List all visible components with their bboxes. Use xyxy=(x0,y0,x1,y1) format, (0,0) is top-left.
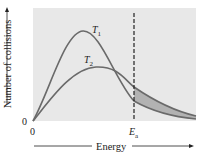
t1-sub: 1 xyxy=(98,30,102,38)
y-axis-label: Number of collisions xyxy=(2,16,14,112)
ea-label: Ea xyxy=(129,126,138,140)
x-axis-arrowhead-icon xyxy=(189,144,194,148)
x-axis-label: Energy xyxy=(96,141,126,152)
ea-sub: a xyxy=(135,132,138,140)
x-axis-zero-tick: 0 xyxy=(30,126,35,137)
y-axis-zero-tick: 0 xyxy=(22,116,27,127)
y-axis-arrowhead-icon xyxy=(5,7,9,12)
t2-label: T2 xyxy=(84,54,93,68)
t1-label: T1 xyxy=(92,24,101,38)
t2-sub: 2 xyxy=(90,60,94,68)
